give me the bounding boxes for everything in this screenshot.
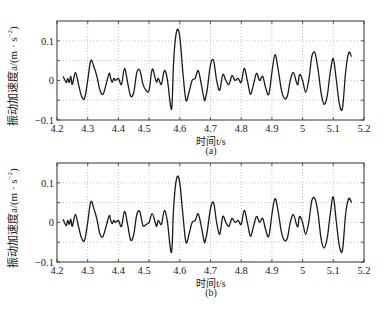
svg-text:0.1: 0.1 <box>41 36 54 47</box>
svg-text:4.4: 4.4 <box>112 123 126 134</box>
waveform-line <box>63 176 352 252</box>
svg-text:5.2: 5.2 <box>357 265 370 276</box>
svg-text:5.1: 5.1 <box>327 265 340 276</box>
y-axis-label-b: 振动加速度a/(m · s−2) <box>4 168 20 268</box>
svg-text:5: 5 <box>300 265 305 276</box>
svg-text:5.1: 5.1 <box>327 123 340 134</box>
svg-text:4.9: 4.9 <box>265 123 278 134</box>
svg-text:4.5: 4.5 <box>138 265 151 276</box>
y-tick-labels: −0.100.1 <box>35 178 54 268</box>
svg-text:0: 0 <box>49 217 54 228</box>
chart-panel-a: 4.24.34.44.54.64.74.84.955.15.2−0.100.1 … <box>0 0 388 156</box>
caption-b: (b) <box>191 287 231 298</box>
svg-text:4.3: 4.3 <box>81 265 94 276</box>
svg-text:−0.1: −0.1 <box>35 115 54 126</box>
svg-text:4.9: 4.9 <box>265 265 278 276</box>
waveform-line <box>63 29 352 110</box>
svg-text:4.3: 4.3 <box>81 123 94 134</box>
svg-text:−0.1: −0.1 <box>35 257 54 268</box>
chart-panel-b: 4.24.34.44.54.64.74.84.955.15.2−0.100.1 … <box>0 142 388 312</box>
svg-text:4.4: 4.4 <box>112 265 126 276</box>
svg-text:0.1: 0.1 <box>41 178 54 189</box>
y-axis-label-a: 振动加速度a/(m · s−2) <box>4 26 20 126</box>
y-tick-labels: −0.100.1 <box>35 36 54 126</box>
svg-text:5.2: 5.2 <box>357 123 370 134</box>
svg-text:5: 5 <box>300 123 305 134</box>
svg-text:0: 0 <box>49 75 54 86</box>
svg-text:4.5: 4.5 <box>138 123 151 134</box>
